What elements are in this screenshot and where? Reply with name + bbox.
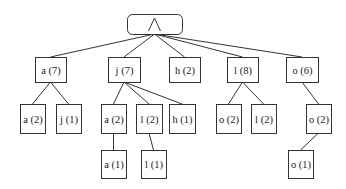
node-label: a (7) (41, 65, 61, 77)
tree-node: o (1) (289, 151, 314, 179)
tree-diagram: a (7)j (7)h (2)l (8)o (6)a (2)j (1)a (2)… (0, 0, 346, 189)
tree-edge (124, 82, 182, 104)
node-label: o (1) (291, 159, 312, 171)
tree-node: o (6) (287, 58, 319, 83)
tree-edge (124, 82, 149, 104)
node-label: o (2) (309, 114, 330, 126)
node-label: j (7) (115, 65, 134, 77)
tree-edge (243, 82, 264, 104)
node-label: h (2) (175, 65, 196, 77)
node-label: l (8) (234, 65, 252, 77)
tree-node: a (7) (36, 58, 67, 83)
tree-edge (149, 133, 154, 150)
node-label: h (1) (172, 114, 193, 126)
tree-edge (302, 82, 319, 104)
node-label: l (1) (145, 159, 163, 171)
node-label: a (2) (23, 114, 43, 126)
tree-edge (301, 133, 319, 150)
tree-node: a (2) (102, 105, 127, 134)
root-box (128, 15, 183, 35)
tree-node: h (2) (170, 58, 201, 83)
node-label: o (2) (219, 114, 240, 126)
tree-node: o (2) (217, 105, 242, 134)
node-label: a (1) (104, 159, 124, 171)
tree-node: a (2) (21, 105, 46, 134)
node-label: l (2) (255, 114, 273, 126)
tree-node: j (7) (109, 58, 141, 83)
tree-node: o (2) (307, 105, 332, 134)
tree-node: l (8) (228, 58, 259, 83)
node-label: o (6) (292, 65, 313, 77)
tree-edge (114, 82, 125, 104)
tree-nodes: a (7)j (7)h (2)l (8)o (6)a (2)j (1)a (2)… (21, 58, 332, 179)
tree-node: l (1) (142, 151, 167, 179)
tree-edge (229, 82, 243, 104)
tree-node: l (2) (137, 105, 163, 134)
node-label: j (1) (59, 114, 78, 126)
node-label: a (2) (104, 114, 124, 126)
tree-node: h (1) (170, 105, 196, 134)
node-label: l (2) (141, 114, 159, 126)
tree-edge (51, 82, 69, 104)
root-node (128, 15, 183, 35)
tree-node: l (2) (252, 105, 277, 134)
tree-edge (33, 82, 51, 104)
tree-node: a (1) (102, 151, 127, 179)
tree-node: j (1) (57, 105, 82, 134)
